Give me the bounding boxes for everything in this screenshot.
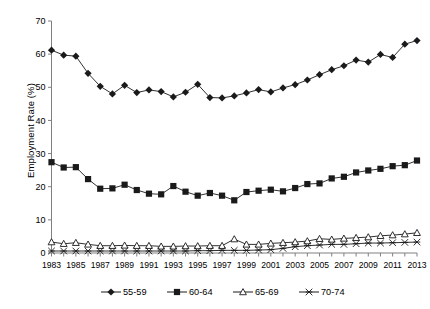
x-tick-label: 1985 [66,260,85,270]
data-point-marker [280,188,286,194]
data-point-marker [121,82,128,89]
data-point-marker [85,176,91,182]
data-point-marker [170,93,177,100]
data-point-marker [353,169,359,175]
data-point-marker [402,239,409,246]
data-point-marker [316,235,323,241]
x-tick-label: 2011 [383,260,402,270]
data-point-marker [255,86,262,93]
data-point-marker [145,86,152,93]
data-point-marker [267,88,274,95]
y-tick-label: 0 [40,248,45,258]
series-line [52,242,418,251]
data-point-marker [402,162,408,168]
data-point-marker [134,187,140,193]
x-tick-label: 1999 [237,260,256,270]
series-line [52,41,418,98]
data-point-marker [170,183,176,189]
data-point-marker [377,166,383,172]
data-point-marker [365,240,372,247]
data-point-marker [158,88,165,95]
data-point-marker [292,185,298,191]
data-point-marker [377,240,384,247]
data-point-marker [414,229,421,235]
data-point-marker [292,81,299,88]
data-point-marker [133,89,140,96]
data-point-marker [231,92,238,99]
data-point-marker [316,242,323,249]
legend-label: 55-59 [123,287,147,297]
legend-item-65-69[interactable]: 65-69 [233,287,279,297]
data-point-marker [365,58,372,65]
chart-legend: 55-5960-6465-6970-74 [101,287,345,297]
data-point-marker [231,197,237,203]
data-point-marker [72,53,79,60]
data-point-marker [341,241,348,248]
data-point-marker [218,94,225,101]
x-tick-label: 1987 [91,260,110,270]
x-tick-label: 2003 [286,260,305,270]
data-point-marker [61,164,67,170]
data-point-marker [48,239,55,245]
data-point-marker [280,245,287,252]
y-tick-label: 70 [35,16,45,26]
y-tick-label: 50 [35,82,45,92]
data-point-marker [414,239,421,246]
legend-label: 65-69 [255,287,279,297]
x-tick-label: 2007 [334,260,353,270]
data-point-marker [174,289,180,295]
data-point-marker [353,240,360,247]
chart-figure: Employment Rate (%) 01020304050607019831… [0,0,430,309]
data-point-marker [243,89,250,96]
data-point-marker [207,190,213,196]
data-point-marker [268,246,275,253]
data-point-marker [48,47,55,54]
data-point-marker [365,167,371,173]
series-60-64 [48,157,420,203]
x-tick-label: 1991 [139,260,158,270]
data-point-marker [146,191,152,197]
data-point-marker [341,174,347,180]
data-point-marker [109,90,116,97]
series-line [52,161,418,201]
data-point-marker [231,236,238,242]
data-point-marker [195,193,201,199]
series-65-69 [48,229,420,249]
x-tick-label: 1995 [188,260,207,270]
data-point-marker [182,189,188,195]
data-point-marker [377,51,384,58]
legend-item-55-59[interactable]: 55-59 [101,287,147,297]
y-tick-label: 30 [35,149,45,159]
legend-item-70-74[interactable]: 70-74 [299,287,345,297]
data-point-marker [219,193,225,199]
data-point-marker [107,288,114,295]
data-point-marker [122,182,128,188]
chart-canvas: 0102030405060701983198519871989199119931… [0,0,430,309]
data-point-marker [97,186,103,192]
data-point-marker [182,89,189,96]
data-point-marker [316,180,322,186]
legend-item-60-64[interactable]: 60-64 [167,287,213,297]
x-tick-label: 1997 [213,260,232,270]
legend-label: 60-64 [189,287,213,297]
data-point-marker [389,239,396,246]
data-point-marker [255,247,262,254]
data-point-marker [414,157,420,163]
data-point-marker [256,188,262,194]
y-tick-label: 60 [35,49,45,59]
data-point-marker [73,164,79,170]
y-tick-label: 20 [35,182,45,192]
data-point-marker [243,189,249,195]
y-tick-label: 10 [35,215,45,225]
data-point-marker [340,62,347,69]
data-point-marker [328,66,335,73]
data-point-marker [279,84,286,91]
x-tick-label: 2013 [407,260,426,270]
series-55-59 [48,37,421,102]
y-tick-label: 40 [35,116,45,126]
x-tick-label: 1993 [164,260,183,270]
data-point-marker [304,76,311,83]
data-point-marker [109,185,115,191]
data-point-marker [60,52,67,59]
data-point-marker [329,175,335,181]
